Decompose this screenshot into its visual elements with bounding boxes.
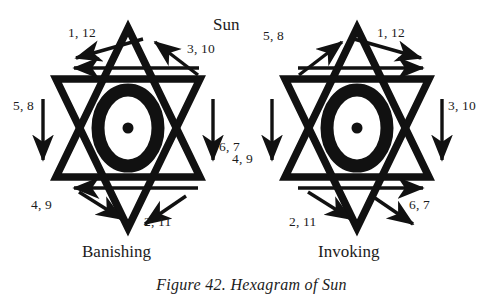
banishing-label-bottom-right: 2, 11 <box>144 215 172 229</box>
banishing-center-sun-icon <box>98 90 158 166</box>
banishing-upward-triangle <box>56 28 200 177</box>
invoking-upward-triangle <box>285 28 429 177</box>
banishing-label-top-left: 1, 12 <box>68 26 96 40</box>
banishing-arrow-1-12 <box>76 39 143 58</box>
hexagram-figure: Sun 1, 12 3, 10 5, 8 6, 7 4, 9 2, 11 5, … <box>0 0 503 305</box>
banishing-label-bottom-left: 4, 9 <box>31 198 52 212</box>
figure-caption: Figure 42. Hexagram of Sun <box>0 276 503 294</box>
invoking-downward-triangle <box>285 79 429 228</box>
invoking-arrow-6-7 <box>372 196 413 224</box>
invoking-label-left: 4, 9 <box>232 152 253 166</box>
invoking-label-bottom-right: 6, 7 <box>409 198 430 212</box>
banishing-downward-triangle <box>56 79 200 228</box>
invoking-label-top-left: 5, 8 <box>263 29 284 43</box>
invoking-label-bottom-left: 2, 11 <box>289 215 317 229</box>
invoking-center-sun-icon <box>327 90 387 166</box>
invoking-label-top-right: 1, 12 <box>377 26 405 40</box>
banishing-label-top-right: 3, 10 <box>187 42 215 56</box>
figure-page: Sun 1, 12 3, 10 5, 8 6, 7 4, 9 2, 11 5, … <box>0 0 503 305</box>
banishing-title: Banishing <box>82 243 151 260</box>
invoking-title: Invoking <box>318 243 379 260</box>
banishing-label-left: 5, 8 <box>13 99 34 113</box>
planet-label: Sun <box>213 16 239 33</box>
invoking-label-right: 3, 10 <box>448 99 476 113</box>
banishing-hexagram <box>43 28 213 228</box>
